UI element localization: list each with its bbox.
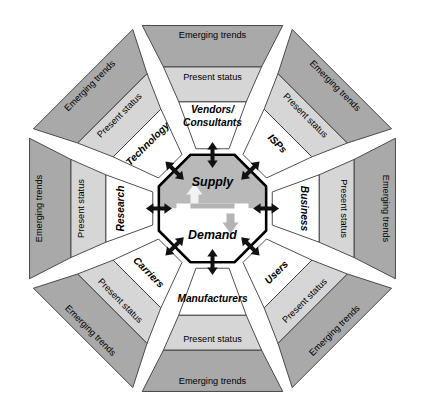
research-name-label: Research	[115, 186, 126, 232]
research-emerging-trends-label: Emerging trends	[34, 174, 44, 242]
business-emerging-trends-label: Emerging trends	[381, 175, 391, 243]
manufacturers-sector-name-band	[179, 268, 247, 315]
flow-connector-bar-shade	[191, 204, 235, 209]
wheel-canvas: Vendors/ConsultantsPresent statusEmergin…	[0, 0, 425, 417]
research-sector-name-band	[106, 175, 153, 243]
manufacturers-present-status-label: Present status	[183, 334, 242, 344]
vendors-consultants-present-status-label: Present status	[183, 72, 242, 82]
research-present-status-label: Present status	[76, 179, 86, 238]
business-present-status-label: Present status	[339, 179, 349, 238]
business-sector-name-band	[272, 175, 319, 243]
manufacturers-emerging-trends-label: Emerging trends	[179, 376, 247, 386]
manufacturers-present-status-band	[163, 315, 261, 350]
supply-label: Supply	[192, 175, 234, 189]
business-name-label: Business	[299, 186, 310, 232]
vendors-consultants-emerging-trends-label: Emerging trends	[179, 30, 247, 40]
supply-demand-wheel-diagram: Vendors/ConsultantsPresent statusEmergin…	[0, 0, 425, 417]
demand-label: Demand	[188, 228, 237, 242]
manufacturers-name-label: Manufacturers	[177, 293, 248, 304]
